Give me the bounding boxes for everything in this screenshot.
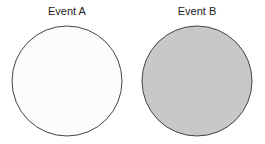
event-diagram: [0, 0, 265, 144]
event-b-label: Event B: [142, 5, 252, 17]
event-b-circle: [142, 26, 252, 136]
event-a-circle: [12, 26, 122, 136]
event-a-label: Event A: [12, 5, 122, 17]
